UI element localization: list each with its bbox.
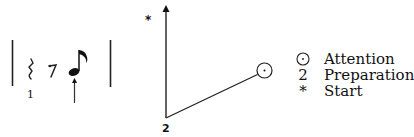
eighth-rest-icon — [49, 65, 56, 77]
axis-top-label: * — [145, 13, 151, 27]
vertical-axis-arrow — [163, 5, 170, 118]
legend-label-start: Start — [324, 83, 362, 99]
up-arrow-icon — [72, 78, 77, 103]
axis-bottom-label: 2 — [162, 122, 170, 135]
quarter-rest-icon — [29, 59, 33, 79]
attention-legend-icon — [294, 52, 312, 66]
legend-item-attention: Attention — [294, 51, 414, 67]
attention-circle-icon — [257, 63, 272, 78]
legend-label-preparation: Preparation — [324, 67, 414, 83]
eighth-note-icon — [68, 50, 88, 77]
legend-item-preparation: 2 Preparation — [294, 67, 414, 83]
diagonal-line — [166, 75, 258, 119]
legend: Attention 2 Preparation * Start — [294, 51, 414, 99]
circle-dot-icon — [296, 52, 310, 66]
start-legend-symbol: * — [294, 82, 312, 100]
legend-label-attention: Attention — [324, 51, 395, 67]
legend-item-start: * Start — [294, 83, 414, 99]
count-label: 1 — [27, 88, 34, 101]
